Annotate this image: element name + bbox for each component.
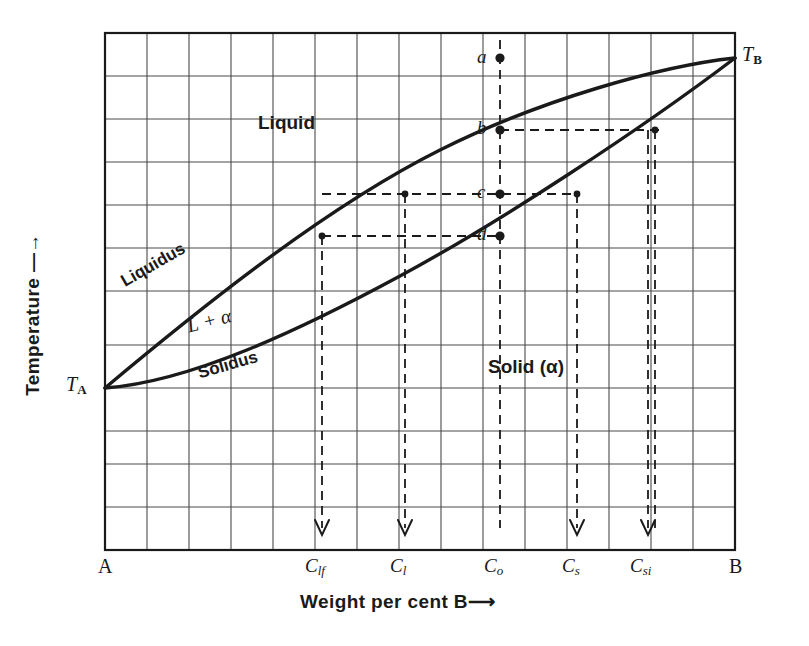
point-clf-on-liquidus: [319, 233, 326, 240]
temperature-b-label: TB: [742, 44, 762, 66]
y-axis-label: Temperature —→: [23, 220, 42, 410]
cs-subscript: s: [575, 563, 580, 578]
x-axis-end-label: B: [729, 556, 742, 576]
composition-label-csi: Csi: [630, 556, 651, 577]
region-label-liquid: Liquid: [258, 113, 315, 132]
ta-base: T: [66, 373, 77, 395]
co-base: C: [484, 555, 497, 576]
liquidus-curve: [105, 58, 735, 388]
csi-subscript: si: [643, 563, 652, 578]
point-a: [495, 53, 504, 62]
composition-label-co: Co: [484, 556, 503, 577]
point-b: [495, 125, 504, 134]
tb-subscript: B: [753, 52, 762, 67]
clf-subscript: lf: [318, 563, 325, 578]
point-label-c: c: [477, 182, 485, 201]
x-axis-start-label: A: [98, 556, 112, 576]
composition-label-cs: Cs: [562, 556, 580, 577]
cs-base: C: [562, 555, 575, 576]
point-cl-on-liquidus: [402, 191, 409, 198]
phase-diagram-figure: Temperature —→ Weight per cent B⟶ Liquid…: [0, 0, 809, 646]
point-label-b: b: [477, 118, 487, 137]
diagram-canvas: [0, 0, 809, 646]
point-c: [495, 189, 504, 198]
co-subscript: o: [497, 563, 504, 578]
csi-base: C: [630, 555, 643, 576]
temperature-a-label: TA: [66, 374, 87, 396]
point-csi-on-solidus: [652, 127, 659, 134]
point-label-a: a: [477, 47, 487, 66]
clf-base: C: [305, 555, 318, 576]
grid-lines: [105, 33, 735, 550]
x-axis-label: Weight per cent B⟶: [300, 592, 495, 611]
tb-base: T: [742, 43, 753, 65]
point-d: [495, 231, 504, 240]
cl-subscript: l: [403, 563, 407, 578]
composition-label-cl: Cl: [390, 556, 406, 577]
tick-arrowheads: [315, 520, 655, 535]
region-label-solid: Solid (α): [488, 357, 564, 376]
cl-base: C: [390, 555, 403, 576]
solidus-curve: [105, 58, 735, 388]
composition-label-clf: Clf: [305, 556, 325, 577]
ta-subscript: A: [77, 382, 86, 397]
point-label-d: d: [477, 224, 487, 243]
point-cs-on-solidus: [574, 191, 581, 198]
